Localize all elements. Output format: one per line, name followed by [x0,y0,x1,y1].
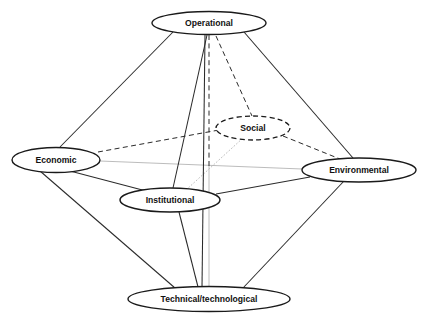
node-environmental-label: Environmental [329,165,389,175]
node-technical-label: Technical/technological [161,294,258,304]
node-social[interactable]: Social [216,116,290,140]
edge-operational-social [216,36,252,116]
edge-social-environmental [283,136,340,159]
node-social-label: Social [240,123,265,133]
edge-social-institutional-axis [186,138,243,190]
edge-economic-social [98,130,219,152]
edge-economic-institutional [70,171,150,192]
node-institutional-label: Institutional [146,195,195,205]
diagram-canvas: Operational Economic Environmental Socia… [0,0,427,320]
node-technical[interactable]: Technical/technological [128,287,290,312]
node-operational-label: Operational [185,18,233,28]
node-operational[interactable]: Operational [152,12,266,35]
node-economic[interactable]: Economic [12,148,100,173]
edge-operational-economic [60,32,173,147]
node-layer: Operational Economic Environmental Socia… [12,12,416,312]
edge-environmental-technical [243,181,344,288]
edge-operational-technical [202,35,205,287]
octahedron-diagram: Operational Economic Environmental Socia… [0,0,427,320]
node-institutional[interactable]: Institutional [120,188,220,212]
edge-institutional-environmental [216,177,310,194]
node-economic-label: Economic [35,155,76,165]
node-environmental[interactable]: Environmental [302,158,416,182]
edge-economic-environmental-axis [100,161,302,169]
edge-institutional-technical [179,212,198,287]
